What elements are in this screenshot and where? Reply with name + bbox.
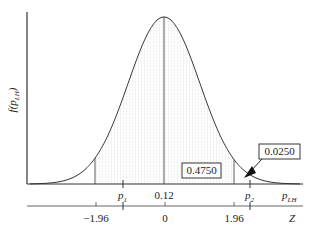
shaded-central-region xyxy=(95,17,234,184)
p1-label: p1 xyxy=(117,189,127,204)
y-axis-label: f(pLH) xyxy=(6,87,21,112)
mean-label: 0.12 xyxy=(154,189,173,201)
z-axis-label: Z xyxy=(289,212,296,224)
z-neg-label: −1.96 xyxy=(83,212,109,224)
x-axis-label: pLH xyxy=(281,189,297,204)
z-pos-label: 1.96 xyxy=(224,212,244,224)
tail-area-annotation: 0.0250 xyxy=(244,144,300,178)
svg-text:0.4750: 0.4750 xyxy=(186,164,217,176)
z-zero-label: 0 xyxy=(162,212,168,224)
normal-distribution-chart: p1 0.12 p2 pLH −1.96 0 1.96 Z f(pLH) 0.4… xyxy=(0,0,315,232)
central-area-annotation: 0.4750 xyxy=(182,163,221,178)
p2-label: p2 xyxy=(244,189,255,204)
svg-text:0.0250: 0.0250 xyxy=(264,145,295,157)
